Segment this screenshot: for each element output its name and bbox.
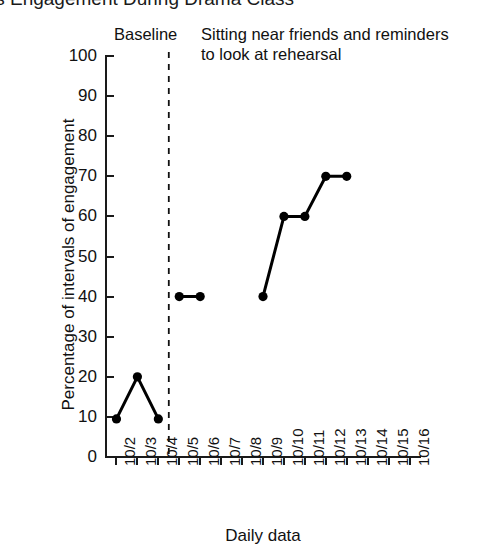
- x-tick-mark: [157, 456, 159, 465]
- x-tick-mark: [241, 456, 243, 465]
- data-line-segment: [263, 176, 347, 296]
- y-axis-title: Percentage of intervals of engagement: [59, 75, 78, 455]
- data-point-marker: [342, 172, 351, 181]
- data-point-marker: [133, 372, 142, 381]
- x-tick-label: 10/11: [311, 430, 326, 466]
- x-tick-mark: [304, 456, 306, 465]
- x-axis-title: Daily data: [105, 526, 421, 545]
- x-tick-label: 10/12: [332, 428, 347, 466]
- y-tick-mark: [105, 416, 114, 418]
- chart-title: line's Engagement During Drama Class: [0, 0, 482, 12]
- x-tick-label: 10/15: [395, 428, 410, 466]
- data-line-segment: [116, 377, 158, 419]
- x-tick-mark: [199, 456, 201, 465]
- x-tick-mark: [283, 456, 285, 465]
- x-tick-label: 10/4: [164, 437, 179, 466]
- x-tick-label: 10/6: [206, 437, 221, 466]
- x-tick-mark: [262, 456, 264, 465]
- x-tick-mark: [388, 456, 390, 465]
- single-subject-line-chart: line's Engagement During Drama Class Bas…: [0, 0, 485, 557]
- data-point-marker: [258, 292, 267, 301]
- y-tick-mark: [105, 175, 114, 177]
- x-tick-label: 10/13: [353, 428, 368, 466]
- data-point-marker: [175, 292, 184, 301]
- x-tick-label: 10/7: [227, 437, 242, 466]
- data-point-marker: [196, 292, 205, 301]
- y-tick-label: 100: [55, 47, 97, 64]
- y-tick-mark: [105, 135, 114, 137]
- x-tick-mark: [325, 456, 327, 465]
- data-point-marker: [279, 212, 288, 221]
- phase-label-baseline: Baseline: [114, 24, 177, 44]
- x-tick-label: 10/10: [290, 428, 305, 466]
- y-tick-mark: [105, 456, 114, 458]
- x-tick-mark: [409, 456, 411, 465]
- x-tick-mark: [220, 456, 222, 465]
- x-tick-label: 10/3: [143, 437, 158, 466]
- x-tick-label: 10/5: [185, 437, 200, 466]
- x-tick-mark: [115, 456, 117, 465]
- y-tick-mark: [105, 336, 114, 338]
- y-tick-mark: [105, 55, 114, 57]
- data-point-marker: [154, 414, 163, 423]
- x-tick-mark: [367, 456, 369, 465]
- x-tick-label: 10/14: [374, 428, 389, 466]
- x-tick-mark: [136, 456, 138, 465]
- y-tick-mark: [105, 256, 114, 258]
- x-tick-label: 10/8: [248, 437, 263, 466]
- x-tick-label: 10/2: [122, 437, 137, 466]
- data-point-marker: [300, 212, 309, 221]
- y-tick-mark: [105, 215, 114, 217]
- x-tick-mark: [346, 456, 348, 465]
- y-tick-mark: [105, 376, 114, 378]
- x-tick-label: 10/16: [416, 428, 431, 466]
- y-tick-mark: [105, 95, 114, 97]
- x-tick-mark: [178, 456, 180, 465]
- y-tick-mark: [105, 296, 114, 298]
- phase-label-intervention: Sitting near friends and reminders to lo…: [201, 24, 451, 64]
- x-tick-label: 10/9: [269, 437, 284, 466]
- data-point-marker: [321, 172, 330, 181]
